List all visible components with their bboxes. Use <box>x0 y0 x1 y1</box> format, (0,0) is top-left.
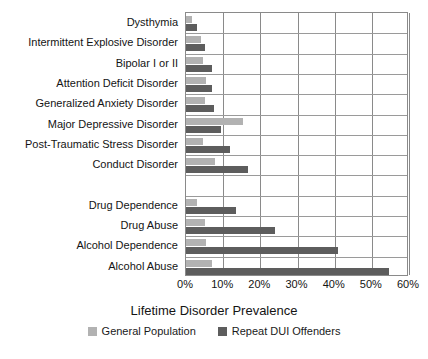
bar-group <box>186 257 407 277</box>
axis-tick-label: 0% <box>177 278 193 290</box>
bar-general-population <box>186 138 203 145</box>
bar-general-population <box>186 239 206 246</box>
bar-group <box>186 155 407 175</box>
bar-group <box>186 94 407 114</box>
bar-repeat-dui-offenders <box>186 24 197 31</box>
category-axis-labels: DysthymiaIntermittent Explosive Disorder… <box>0 12 182 276</box>
bar-general-population <box>186 219 205 226</box>
chart-legend: General Population Repeat DUI Offenders <box>0 325 428 337</box>
bar-general-population <box>186 199 197 206</box>
bar-group <box>186 196 407 216</box>
bar-general-population <box>186 118 243 125</box>
category-label: Post-Traumatic Stress Disorder <box>25 134 178 154</box>
axis-tick-label: 50% <box>360 278 382 290</box>
legend-item-general-population: General Population <box>88 325 196 337</box>
axis-title: Lifetime Disorder Prevalence <box>0 303 428 318</box>
bar-repeat-dui-offenders <box>186 126 221 133</box>
bar-general-population <box>186 16 192 23</box>
bar-repeat-dui-offenders <box>186 166 248 173</box>
bar-general-population <box>186 158 215 165</box>
bar-group <box>186 54 407 74</box>
axis-tick-label: 10% <box>211 278 233 290</box>
bar-repeat-dui-offenders <box>186 65 212 72</box>
bar-group <box>186 175 407 195</box>
category-label: Major Depressive Disorder <box>48 114 178 134</box>
legend-label: General Population <box>102 325 196 337</box>
axis-tick-label: 20% <box>248 278 270 290</box>
bar-repeat-dui-offenders <box>186 227 275 234</box>
category-label: Bipolar I or II <box>116 53 178 73</box>
bar-general-population <box>186 36 201 43</box>
legend-label: Repeat DUI Offenders <box>232 325 341 337</box>
bar-rows <box>186 13 407 275</box>
bar-repeat-dui-offenders <box>186 207 236 214</box>
bar-group <box>186 135 407 155</box>
bar-group <box>186 115 407 135</box>
bar-group <box>186 236 407 256</box>
legend-item-repeat-dui-offenders: Repeat DUI Offenders <box>218 325 341 337</box>
gridline-vertical <box>409 13 410 275</box>
axis-tick-label: 60% <box>397 278 419 290</box>
legend-swatch-icon <box>88 327 97 336</box>
bar-repeat-dui-offenders <box>186 247 338 254</box>
category-label: Intermittent Explosive Disorder <box>28 32 178 52</box>
bar-group <box>186 33 407 53</box>
bar-repeat-dui-offenders <box>186 44 205 51</box>
bar-group <box>186 74 407 94</box>
bar-repeat-dui-offenders <box>186 146 230 153</box>
category-label: Drug Dependence <box>89 195 178 215</box>
category-label: Dysthymia <box>127 12 178 32</box>
bar-repeat-dui-offenders <box>186 268 389 275</box>
category-label: Generalized Anxiety Disorder <box>36 93 178 113</box>
bar-general-population <box>186 97 205 104</box>
plot-area <box>185 12 408 276</box>
bar-general-population <box>186 57 203 64</box>
category-label: Drug Abuse <box>121 215 178 235</box>
axis-tick-label: 40% <box>323 278 345 290</box>
axis-tick-label: 30% <box>285 278 307 290</box>
bar-general-population <box>186 77 206 84</box>
bar-repeat-dui-offenders <box>186 105 214 112</box>
category-label: Alcohol Dependence <box>76 235 178 255</box>
bar-repeat-dui-offenders <box>186 85 212 92</box>
bar-chart: DysthymiaIntermittent Explosive Disorder… <box>0 0 428 359</box>
bar-group <box>186 13 407 33</box>
category-label: Attention Deficit Disorder <box>56 73 178 93</box>
category-label: Alcohol Abuse <box>108 256 178 276</box>
legend-swatch-icon <box>218 327 227 336</box>
value-axis-ticks: 0%10%20%30%40%50%60% <box>185 278 408 294</box>
category-label: Conduct Disorder <box>92 154 178 174</box>
bar-group <box>186 216 407 236</box>
bar-general-population <box>186 260 212 267</box>
